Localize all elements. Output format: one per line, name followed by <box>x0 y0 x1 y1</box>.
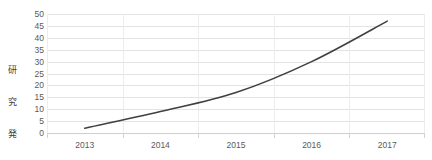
x-axis-tick-labels: 2013 2014 2015 2016 2017 <box>47 140 425 158</box>
y-axis-tick-label: 0 <box>22 128 44 138</box>
x-axis-tick-label: 2014 <box>151 140 170 150</box>
y-axis-tick-label: 30 <box>22 57 44 67</box>
y-axis-tick-label: 40 <box>22 33 44 43</box>
x-axis-tick-label: 2013 <box>75 140 94 150</box>
line-chart: 研 究 発 表 数 0 5 10 15 20 25 30 35 40 45 50 <box>0 0 432 160</box>
y-axis-tick-label: 25 <box>22 69 44 79</box>
x-axis-tick-label: 2017 <box>378 140 397 150</box>
x-axis-tickmark <box>47 133 48 138</box>
x-axis-line <box>47 133 425 134</box>
y-axis-tick-label: 50 <box>22 9 44 19</box>
y-axis-tick-label: 10 <box>22 104 44 114</box>
x-axis-tickmark <box>123 133 124 138</box>
series-line-research-presentations <box>47 14 425 133</box>
y-axis-title-char: 究 <box>4 97 20 108</box>
y-axis-tick-label: 45 <box>22 21 44 31</box>
y-axis-title: 研 究 発 表 数 <box>4 44 20 160</box>
x-axis-tickmark <box>349 133 350 138</box>
y-axis-title-char: 発 <box>4 129 20 140</box>
x-axis-tickmark <box>424 133 425 138</box>
series-path <box>85 21 387 128</box>
y-axis-tick-label: 20 <box>22 80 44 90</box>
y-axis-tick-labels: 0 5 10 15 20 25 30 35 40 45 50 <box>22 0 44 160</box>
x-axis-tick-label: 2016 <box>302 140 321 150</box>
plot-area <box>47 14 425 133</box>
y-axis-title-char: 研 <box>4 65 20 76</box>
y-axis-tick-label: 15 <box>22 92 44 102</box>
y-axis-tick-label: 5 <box>22 116 44 126</box>
x-axis-tick-label: 2015 <box>227 140 246 150</box>
x-axis-tickmark <box>274 133 275 138</box>
y-axis-tick-label: 35 <box>22 45 44 55</box>
x-axis-tickmark <box>198 133 199 138</box>
